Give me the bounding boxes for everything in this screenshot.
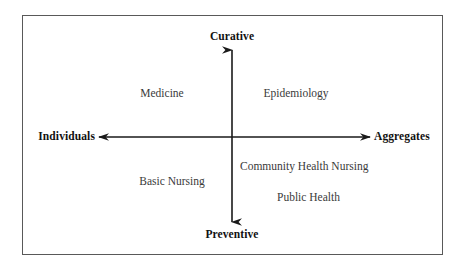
axis-label-aggregates: Aggregates (374, 131, 430, 143)
quadrant-label-basic-nursing: Basic Nursing (139, 176, 204, 188)
quadrant-diagram: Curative Preventive Individuals Aggregat… (0, 0, 462, 267)
axis-label-individuals: Individuals (38, 131, 95, 143)
axis-label-curative: Curative (210, 31, 254, 43)
axis-label-preventive: Preventive (205, 229, 258, 241)
quadrant-label-medicine: Medicine (140, 88, 183, 100)
quadrant-label-epidemiology: Epidemiology (263, 88, 328, 100)
quadrant-label-public-health: Public Health (277, 192, 340, 204)
quadrant-label-community-health-nursing: Community Health Nursing (240, 161, 368, 173)
